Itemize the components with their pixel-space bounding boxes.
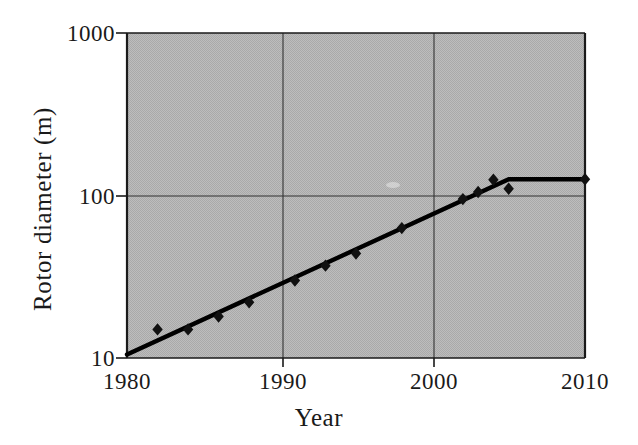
scan-artifact [386, 182, 400, 188]
x-axis-tick-2000: 2000 [410, 370, 458, 393]
x-axis-title: Year [0, 404, 638, 432]
y-axis-tick-100: 100 [79, 185, 115, 208]
y-axis-tick-10: 10 [91, 347, 115, 370]
chart-figure: 1000 100 10 1980 1990 2000 2010 Rotor di… [0, 0, 638, 445]
x-axis-tick-1990: 1990 [259, 370, 307, 393]
y-axis-title: Rotor diameter (m) [29, 44, 57, 374]
rotor-diameter-log-chart [0, 0, 638, 445]
x-axis-tick-1980: 1980 [103, 370, 151, 393]
x-axis-tick-2010: 2010 [561, 370, 609, 393]
y-axis-tick-1000: 1000 [67, 22, 115, 45]
